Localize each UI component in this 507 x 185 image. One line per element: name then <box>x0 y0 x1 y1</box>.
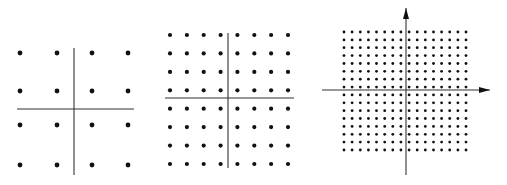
constellation-point <box>383 78 386 81</box>
constellation-point <box>457 117 460 120</box>
constellation-point <box>351 133 354 136</box>
constellation-point <box>18 123 23 128</box>
constellation-point <box>359 62 362 65</box>
constellation-point <box>55 123 60 128</box>
constellation-point <box>219 51 223 55</box>
constellation-point <box>185 88 189 92</box>
constellation-point <box>391 86 394 89</box>
constellation-point <box>18 51 23 56</box>
constellation-point <box>416 141 419 144</box>
constellation-point <box>367 101 370 104</box>
constellation-point <box>235 51 239 55</box>
constellation-point <box>432 101 435 104</box>
constellation-point <box>359 39 362 42</box>
constellation-point <box>375 149 378 152</box>
constellation-point <box>235 107 239 111</box>
constellation-point <box>465 141 468 144</box>
constellation-point <box>457 39 460 42</box>
constellation-point <box>202 33 206 37</box>
constellation-point <box>286 144 290 148</box>
constellation-point <box>375 94 378 97</box>
constellation-point <box>202 144 206 148</box>
constellation-point <box>457 101 460 104</box>
constellation-point <box>343 78 346 81</box>
constellation-point <box>400 46 403 49</box>
constellation-point <box>359 54 362 57</box>
constellation-point <box>400 78 403 81</box>
constellation-point <box>269 107 273 111</box>
constellation-point <box>351 70 354 73</box>
constellation-point <box>383 39 386 42</box>
constellation-point <box>351 141 354 144</box>
constellation-point <box>457 54 460 57</box>
constellation-point <box>202 51 206 55</box>
constellation-point <box>351 94 354 97</box>
constellation-point <box>269 144 273 148</box>
constellation-point <box>408 46 411 49</box>
constellation-point <box>168 33 172 37</box>
constellation-point <box>457 46 460 49</box>
constellation-point <box>185 33 189 37</box>
constellation-point <box>351 101 354 104</box>
constellation-point <box>424 133 427 136</box>
constellation-point <box>400 149 403 152</box>
constellation-point <box>424 39 427 42</box>
constellation-point <box>235 70 239 74</box>
constellation-point <box>400 94 403 97</box>
constellation-point <box>448 62 451 65</box>
constellation-point <box>416 109 419 112</box>
constellation-point <box>351 31 354 34</box>
constellation-point <box>465 109 468 112</box>
constellation-point <box>367 86 370 89</box>
constellation-point <box>465 46 468 49</box>
constellation-point <box>408 86 411 89</box>
constellation-point <box>383 101 386 104</box>
constellation-point <box>440 141 443 144</box>
constellation-point <box>252 144 256 148</box>
constellation-point <box>359 70 362 73</box>
constellation-point <box>408 149 411 152</box>
constellation-point <box>375 54 378 57</box>
constellation-point <box>391 125 394 128</box>
constellation-point <box>465 133 468 136</box>
constellation-point <box>457 78 460 81</box>
constellation-point <box>375 133 378 136</box>
constellation-point <box>351 109 354 112</box>
constellation-point <box>391 70 394 73</box>
constellation-point <box>269 125 273 129</box>
constellation-point <box>432 125 435 128</box>
panel-4x4 <box>17 48 134 175</box>
constellation-point <box>343 149 346 152</box>
constellation-point <box>457 70 460 73</box>
constellation-point <box>351 54 354 57</box>
constellation-point <box>375 125 378 128</box>
constellation-point <box>252 162 256 166</box>
constellation-point <box>424 70 427 73</box>
constellation-point <box>359 141 362 144</box>
constellation-point <box>55 89 60 94</box>
constellation-point <box>359 101 362 104</box>
constellation-point <box>424 86 427 89</box>
constellation-point <box>235 162 239 166</box>
constellation-point <box>448 141 451 144</box>
constellation-point <box>219 33 223 37</box>
constellation-point <box>416 46 419 49</box>
constellation-point <box>351 149 354 152</box>
constellation-point <box>351 78 354 81</box>
constellation-point <box>400 125 403 128</box>
constellation-point <box>424 94 427 97</box>
constellation-point <box>440 31 443 34</box>
constellation-point <box>391 39 394 42</box>
constellation-point <box>432 141 435 144</box>
constellation-point <box>391 133 394 136</box>
constellation-point <box>168 88 172 92</box>
constellation-point <box>269 88 273 92</box>
constellation-point <box>367 54 370 57</box>
constellation-point <box>416 54 419 57</box>
constellation-point <box>375 39 378 42</box>
x-axis-arrowhead-icon <box>479 87 490 93</box>
constellation-point <box>408 78 411 81</box>
constellation-point <box>457 94 460 97</box>
constellation-point <box>432 62 435 65</box>
constellation-point <box>367 117 370 120</box>
